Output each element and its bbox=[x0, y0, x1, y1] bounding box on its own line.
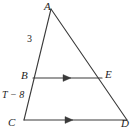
segment-ac-line bbox=[24, 9, 51, 120]
parallel-arrow-marker-be-icon bbox=[63, 75, 71, 82]
measure-label-segment-bc: T − 8 bbox=[2, 90, 24, 100]
measure-label-segment-ab: 3 bbox=[27, 34, 32, 44]
vertex-label-b: B bbox=[21, 70, 28, 81]
vertex-label-a: A bbox=[44, 1, 51, 12]
vertex-label-c: C bbox=[8, 117, 15, 128]
vertex-label-d: D bbox=[121, 118, 129, 129]
vertex-label-e: E bbox=[105, 69, 112, 80]
geometry-figure: A B C D E 3 T − 8 bbox=[0, 0, 137, 136]
parallel-arrow-marker-cd-icon bbox=[65, 117, 73, 124]
segment-ad-line bbox=[51, 9, 127, 120]
triangle-diagram-svg bbox=[0, 0, 137, 136]
